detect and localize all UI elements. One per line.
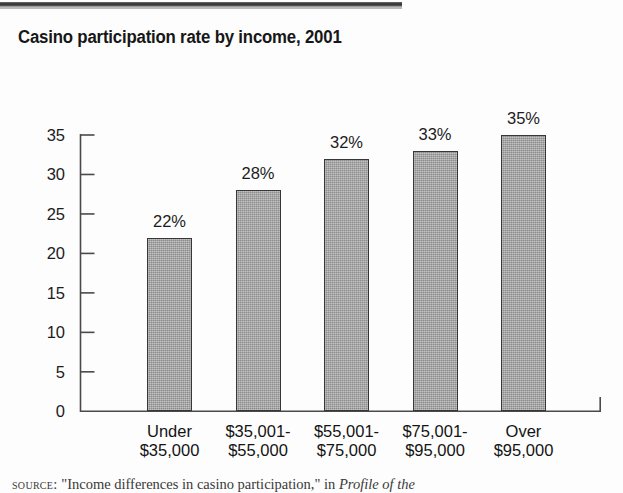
y-axis-tick-label: 35 xyxy=(27,126,65,145)
bar-value-label: 32% xyxy=(302,133,392,152)
y-axis-tick-label: 0 xyxy=(27,402,65,421)
source-caption: source: "Income differences in casino pa… xyxy=(12,476,415,493)
bar xyxy=(147,238,192,412)
y-axis-tick-label: 20 xyxy=(27,244,65,263)
chart-figure: Casino participation rate by income, 200… xyxy=(0,0,623,493)
plot-area: 05101520253035 22%28%32%33%35% Under$35,… xyxy=(0,0,623,470)
source-publication: Profile of the xyxy=(339,476,415,492)
bar-value-label: 35% xyxy=(479,109,569,128)
source-connector: in xyxy=(324,476,335,492)
bar-value-label: 22% xyxy=(125,212,215,231)
y-axis-tick-marks xyxy=(81,135,95,372)
x-axis-label-line: $95,000 xyxy=(464,441,584,460)
bar-value-label: 33% xyxy=(390,125,480,144)
x-axis-category-label: Over$95,000 xyxy=(464,422,584,460)
bar xyxy=(413,151,458,412)
y-axis-tick-label: 25 xyxy=(27,204,65,223)
y-axis-tick-label: 5 xyxy=(27,362,65,381)
source-caption-clip: source: "Income differences in casino pa… xyxy=(0,476,623,493)
y-axis-tick-label: 30 xyxy=(27,165,65,184)
y-axis-tick-label: 10 xyxy=(27,323,65,342)
bar xyxy=(324,159,369,412)
source-label: source: xyxy=(12,476,58,492)
x-axis-label-line: Over xyxy=(464,422,584,441)
y-axis-tick-label: 15 xyxy=(27,283,65,302)
bar xyxy=(501,135,546,411)
source-article-title: "Income differences in casino participat… xyxy=(61,476,320,492)
bar-value-label: 28% xyxy=(213,164,303,183)
bar xyxy=(236,190,281,411)
